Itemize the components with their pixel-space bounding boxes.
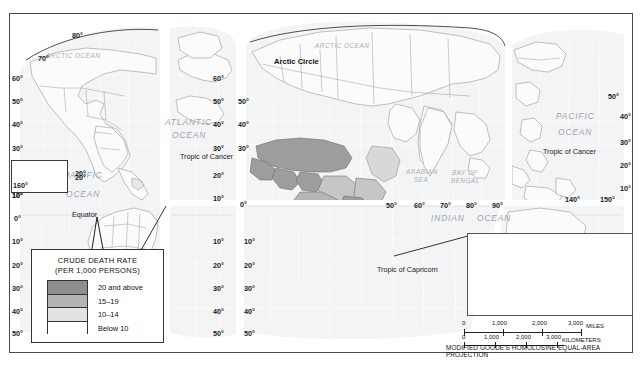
graticule-label-18: 50°: [213, 98, 224, 105]
legend-label-0: 20 and above: [98, 283, 143, 292]
ocean-label-2: ATLANTIC: [165, 118, 212, 126]
graticule-label-0: 80°: [72, 32, 83, 39]
graticule-label-5: 30°: [12, 145, 23, 152]
legend-swatch-stack: [47, 280, 88, 334]
graticule-label-15: 50°: [12, 330, 23, 337]
graticule-label-1: 70°: [38, 55, 49, 62]
graticule-label-37: 50°: [386, 202, 397, 209]
graticule-label-45: 40°: [620, 113, 631, 120]
graticule-label-13: 30°: [12, 285, 23, 292]
scale-miles-tick-1: 1,000: [492, 320, 507, 326]
graticule-label-19: 40°: [213, 121, 224, 128]
scale-miles-unit: MILES: [586, 323, 604, 329]
graticule-label-24: 20°: [213, 262, 224, 269]
ocean-label-10: ARABIAN: [406, 169, 438, 175]
graticule-label-39: 70°: [440, 202, 451, 209]
legend-label-1: 15–19: [98, 297, 119, 306]
graticule-label-3: 50°: [12, 98, 23, 105]
legend-swatch-0: [48, 281, 87, 295]
graticule-label-44: 50°: [608, 93, 619, 100]
hawaii-inset-lon-label: 160°: [13, 182, 28, 189]
ocean-label-9: OCEAN: [477, 214, 511, 222]
legend-swatch-1: [48, 295, 87, 309]
graticule-label-22: 10°: [213, 195, 224, 202]
ocean-label-8: INDIAN: [431, 214, 465, 222]
graticule-label-30: 30°: [238, 145, 249, 152]
graticule-label-17: 60°: [213, 75, 224, 82]
projection-note: MODIFIED GOODE'S HOMOLOSINE EQUAL-AREA P…: [446, 344, 643, 358]
reference-label-0: Arctic Circle: [274, 58, 319, 66]
scale-miles-tick-0: 0: [462, 320, 465, 326]
map-figure: ARCTIC OCEANARCTIC OCEANATLANTICOCEANPAC…: [0, 0, 643, 368]
graticule-label-4: 40°: [12, 121, 23, 128]
scale-km-tick-0: 0: [462, 334, 465, 340]
ocean-label-0: ARCTIC OCEAN: [46, 53, 100, 59]
scale-miles-tick-3: 3,000: [568, 320, 583, 326]
ocean-label-3: OCEAN: [172, 131, 206, 139]
graticule-label-47: 20°: [620, 162, 631, 169]
scale-km-tick-2: 2,000: [516, 334, 531, 340]
graticule-label-12: 20°: [12, 262, 23, 269]
graticule-label-14: 40°: [12, 308, 23, 315]
graticule-label-43: 150°: [600, 196, 615, 203]
graticule-label-32: 10°: [244, 238, 255, 245]
reference-label-4: Tropic of Capricorn: [377, 266, 438, 273]
graticule-label-11: 10°: [12, 238, 23, 245]
graticule-label-29: 40°: [238, 121, 249, 128]
graticule-label-25: 30°: [213, 285, 224, 292]
graticule-label-21: 20°: [213, 172, 224, 179]
graticule-label-26: 40°: [213, 308, 224, 315]
graticule-label-28: 50°: [238, 98, 249, 105]
graticule-label-48: 10°: [620, 185, 631, 192]
graticule-label-35: 40°: [244, 308, 255, 315]
hawaii-inset-lat-label: 20°: [75, 170, 86, 177]
reference-label-1: Equator: [72, 211, 97, 218]
scale-km-tick-3: 3,000: [546, 334, 561, 340]
ocean-label-11: SEA: [414, 177, 428, 183]
graticule-label-20: 30°: [213, 145, 224, 152]
legend-swatch-2: [48, 308, 87, 322]
legend-title-line1: CRUDE DEATH RATE: [32, 256, 163, 265]
scale-km-unit: KILOMETERS: [562, 337, 601, 343]
graticule-label-23: 10°: [213, 238, 224, 245]
graticule-label-2: 60°: [12, 75, 23, 82]
graticule-label-36: 50°: [244, 330, 255, 337]
graticule-label-42: 140°: [565, 196, 580, 203]
graticule-label-34: 30°: [244, 285, 255, 292]
graticule-label-31: 0°: [240, 201, 247, 208]
legend-label-3: Below 10: [98, 324, 128, 333]
reference-label-3: Tropic of Cancer: [543, 148, 596, 155]
graticule-label-46: 30°: [620, 139, 631, 146]
scale-miles-tick-2: 2,000: [532, 320, 547, 326]
graticule-label-10: 0°: [14, 215, 21, 222]
legend-label-2: 10–14: [98, 310, 119, 319]
graticule-label-27: 50°: [213, 330, 224, 337]
ocean-label-13: BENGAL: [451, 178, 480, 184]
graticule-label-41: 90°: [492, 202, 503, 209]
graticule-label-33: 20°: [244, 262, 255, 269]
australia-inset-box: [467, 233, 633, 316]
scale-km-tick-1: 1,000: [484, 334, 499, 340]
ocean-label-5: OCEAN: [66, 190, 100, 198]
graticule-label-38: 60°: [414, 202, 425, 209]
ocean-label-7: OCEAN: [558, 128, 592, 136]
graticule-label-9: 10°: [12, 192, 23, 199]
legend-box: CRUDE DEATH RATE (PER 1,000 PERSONS) 20 …: [31, 249, 164, 343]
reference-label-2: Tropic of Cancer: [180, 153, 233, 160]
hawaii-inset-box: 160°: [11, 160, 68, 193]
graticule-label-40: 80°: [466, 202, 477, 209]
ocean-label-6: PACIFIC: [556, 112, 595, 120]
ocean-label-12: BAY OF: [452, 170, 478, 176]
legend-swatch-3: [48, 322, 87, 336]
legend-title-line2: (PER 1,000 PERSONS): [32, 266, 163, 275]
ocean-label-1: ARCTIC OCEAN: [315, 43, 369, 49]
